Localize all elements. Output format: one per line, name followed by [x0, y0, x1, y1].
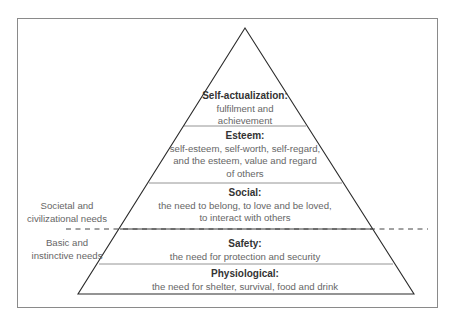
- level-description-line: of others: [165, 168, 325, 181]
- side-label-line: instinctive needs: [22, 250, 112, 263]
- level-description-line: to interact with others: [145, 212, 345, 225]
- level-title: Self-actualization:: [195, 90, 295, 103]
- level-social: Social: the need to belong, to love and …: [145, 187, 345, 225]
- level-title: Esteem:: [165, 130, 325, 143]
- level-description-line: and the esteem, value and regard: [165, 155, 325, 168]
- level-description-line: the need for protection and security: [145, 251, 345, 264]
- level-safety: Safety: the need for protection and secu…: [145, 238, 345, 263]
- level-description-line: the need for shelter, survival, food and…: [135, 281, 355, 294]
- level-description-line: the need to belong, to love and be loved…: [145, 200, 345, 213]
- side-label-line: Basic and: [22, 237, 112, 250]
- level-esteem: Esteem: self-esteem, self-worth, self-re…: [165, 130, 325, 180]
- level-self-actualization: Self-actualization: fulfilment and achie…: [195, 90, 295, 128]
- level-title: Social:: [145, 187, 345, 200]
- level-physiological: Physiological: the need for shelter, sur…: [135, 268, 355, 293]
- level-description-line: self-esteem, self-worth, self-regard,: [165, 143, 325, 156]
- side-label-basic-needs: Basic and instinctive needs: [22, 237, 112, 262]
- level-title: Physiological:: [135, 268, 355, 281]
- level-title: Safety:: [145, 238, 345, 251]
- side-label-line: Societal and: [22, 200, 112, 213]
- level-description-line: achievement: [195, 115, 295, 128]
- side-label-societal-needs: Societal and civilizational needs: [22, 200, 112, 225]
- level-description-line: fulfilment and: [195, 103, 295, 116]
- side-label-line: civilizational needs: [22, 213, 112, 226]
